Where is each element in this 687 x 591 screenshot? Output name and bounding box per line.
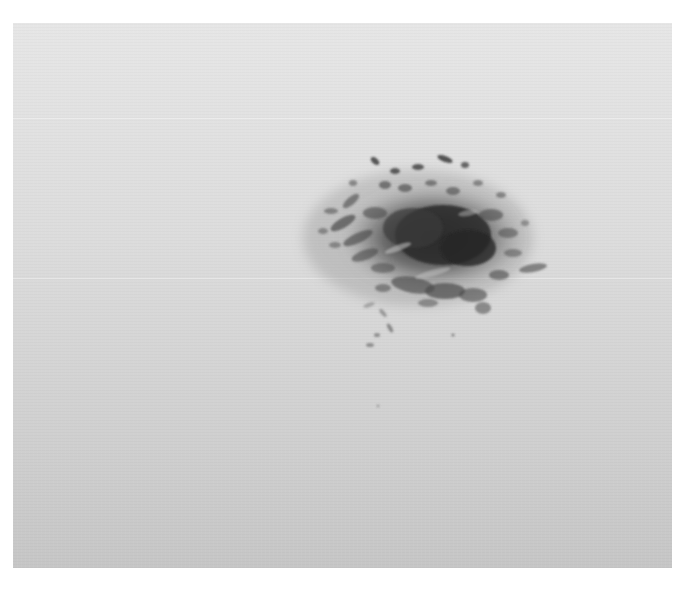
- page: [0, 0, 687, 591]
- photograph: [13, 23, 672, 568]
- dark-blot: [13, 23, 672, 568]
